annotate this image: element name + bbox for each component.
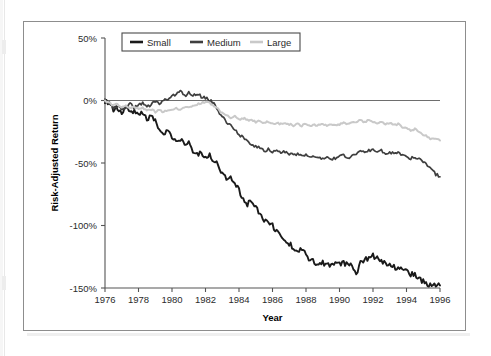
x-tick-label: 1984 — [228, 294, 249, 305]
y-tick-label: -150% — [70, 283, 98, 294]
line-chart: 50%0%-50%-100%-150%197619781980198219841… — [0, 0, 491, 356]
figure-container: 50%0%-50%-100%-150%197619781980198219841… — [0, 0, 491, 356]
x-axis-title: Year — [262, 312, 282, 323]
legend-label-large: Large — [267, 37, 291, 48]
series-line-medium — [105, 91, 440, 177]
legend-label-small: Small — [147, 37, 171, 48]
legend-label-medium: Medium — [207, 37, 241, 48]
y-tick-label: 50% — [78, 33, 98, 44]
x-tick-label: 1990 — [329, 294, 350, 305]
x-tick-label: 1992 — [362, 294, 383, 305]
x-tick-label: 1982 — [195, 294, 216, 305]
y-tick-label: -100% — [70, 220, 98, 231]
y-tick-label: 0% — [83, 95, 97, 106]
y-axis-title: Risk-Adjusted Return — [49, 114, 60, 211]
x-tick-label: 1978 — [128, 294, 149, 305]
series-line-small — [105, 100, 440, 287]
x-tick-label: 1994 — [396, 294, 417, 305]
x-tick-label: 1976 — [94, 294, 115, 305]
y-tick-label: -50% — [75, 158, 98, 169]
x-tick-label: 1988 — [295, 294, 316, 305]
x-tick-label: 1986 — [262, 294, 283, 305]
x-tick-label: 1980 — [161, 294, 182, 305]
x-tick-label: 1996 — [429, 294, 450, 305]
